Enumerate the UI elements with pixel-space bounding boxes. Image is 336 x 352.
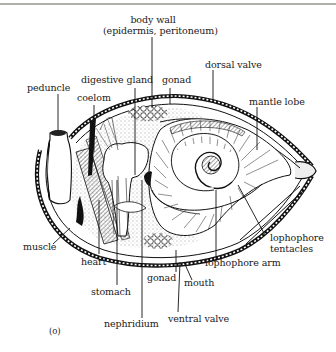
label-gonad-bottom: gonad: [147, 272, 176, 283]
label-body-wall: body wall (epidermis, peritoneum): [103, 14, 203, 36]
label-lophophore-tentacles-line1: lophophore: [270, 232, 324, 243]
label-body-wall-line1: body wall: [103, 14, 203, 25]
panel-label: (o): [49, 326, 60, 337]
label-lophophore-tentacles: lophophore tentacles: [270, 232, 324, 254]
label-body-wall-line2: (epidermis, peritoneum): [103, 25, 203, 36]
peduncle-structure: [47, 130, 71, 204]
label-lophophore-arm: lophophore arm: [205, 257, 281, 268]
label-digestive-gland: digestive gland: [81, 74, 153, 85]
label-gonad-top: gonad: [162, 74, 191, 85]
gonad-top-cluster: [128, 105, 168, 121]
label-heart: heart: [81, 256, 106, 267]
label-peduncle: peduncle: [27, 82, 70, 93]
label-ventral-valve: ventral valve: [168, 313, 229, 324]
label-coelom: coelom: [77, 92, 111, 103]
label-nephridium: nephridium: [104, 318, 159, 329]
gonad-bottom-cluster: [143, 233, 173, 249]
brachiopod-diagram: body wall (epidermis, peritoneum) dorsal…: [0, 0, 336, 352]
label-lophophore-tentacles-line2: tentacles: [270, 243, 324, 254]
diagram-drawing: [0, 0, 336, 352]
label-dorsal-valve: dorsal valve: [205, 59, 262, 70]
label-mantle-lobe: mantle lobe: [249, 96, 305, 107]
label-muscle: muscle: [23, 241, 56, 252]
label-mouth: mouth: [184, 277, 214, 288]
label-stomach: stomach: [91, 286, 131, 297]
